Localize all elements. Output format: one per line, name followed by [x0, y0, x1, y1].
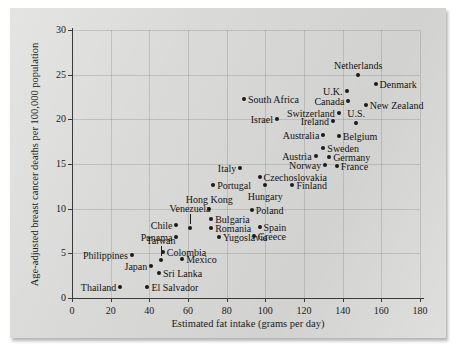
data-point — [118, 285, 122, 289]
x-tick-label: 0 — [70, 304, 75, 317]
data-point — [130, 253, 134, 257]
data-point — [345, 89, 349, 93]
label-leader-line — [190, 214, 191, 224]
point-label: Greece — [258, 231, 286, 242]
point-label: New Zealand — [370, 100, 424, 111]
point-label: Netherlands — [334, 59, 382, 70]
x-tick-mark — [111, 298, 112, 302]
x-tick-mark — [304, 298, 305, 302]
point-label: Venezuela — [169, 203, 210, 214]
y-tick-mark — [68, 75, 72, 76]
data-point — [290, 183, 294, 187]
data-point — [356, 73, 360, 77]
data-point — [346, 99, 350, 103]
point-label: Chile — [151, 219, 173, 230]
x-tick-label: 140 — [335, 304, 350, 317]
data-point — [157, 271, 161, 275]
data-point — [335, 164, 339, 168]
data-point — [314, 154, 318, 158]
data-point — [321, 146, 325, 150]
y-tick-mark — [68, 253, 72, 254]
point-label: Belgium — [343, 131, 377, 142]
x-tick-label: 160 — [374, 304, 389, 317]
point-label: U.S. — [347, 107, 365, 118]
x-tick-mark — [227, 298, 228, 302]
y-tick-label: 0 — [61, 291, 66, 304]
data-point — [374, 82, 378, 86]
label-leader-line — [161, 246, 162, 256]
data-point — [180, 257, 184, 261]
data-point — [149, 264, 153, 268]
data-point — [250, 208, 254, 212]
data-point — [323, 163, 327, 167]
point-label: El Salvador — [151, 282, 198, 293]
x-axis-line: 020406080100120140160180 — [72, 298, 424, 299]
y-axis-title-text: Age-adjusted breast cancer deaths per 10… — [30, 42, 41, 285]
point-label: Israel — [251, 114, 273, 125]
y-tick-mark — [68, 164, 72, 165]
y-axis-line: 051015202530 — [72, 28, 73, 300]
point-label: Portugal — [217, 179, 251, 190]
data-point — [258, 175, 262, 179]
point-label: Italy — [218, 162, 236, 173]
x-tick-mark — [72, 298, 73, 302]
point-label: Hungary — [248, 191, 283, 202]
gridline-horizontal — [72, 30, 420, 31]
data-point — [159, 258, 163, 262]
data-point — [209, 217, 213, 221]
data-point — [217, 235, 221, 239]
point-label: Philippines — [83, 250, 128, 261]
gridline-horizontal — [72, 75, 420, 76]
point-label: Norway — [289, 159, 321, 170]
plot-area: NetherlandsDenmarkU.K.CanadaNew ZealandS… — [72, 30, 420, 298]
y-tick-mark — [68, 209, 72, 210]
y-tick-label: 25 — [56, 68, 66, 81]
gridline-vertical — [420, 30, 421, 298]
point-label: U.K. — [323, 85, 342, 96]
data-point — [242, 97, 246, 101]
point-label: Mexico — [186, 253, 217, 264]
x-tick-label: 120 — [297, 304, 312, 317]
data-point — [238, 166, 242, 170]
point-label: Denmark — [380, 78, 417, 89]
x-tick-label: 80 — [222, 304, 232, 317]
point-label: Sri Lanka — [163, 267, 202, 278]
x-tick-mark — [188, 298, 189, 302]
y-tick-label: 5 — [61, 246, 66, 259]
point-label: South Africa — [248, 93, 299, 104]
point-label: Ireland — [301, 116, 329, 127]
x-tick-mark — [343, 298, 344, 302]
x-tick-label: 180 — [413, 304, 428, 317]
point-label: France — [341, 160, 368, 171]
y-tick-label: 30 — [56, 23, 66, 36]
x-tick-label: 20 — [106, 304, 116, 317]
data-point — [321, 133, 325, 137]
data-point — [174, 223, 178, 227]
y-tick-mark — [68, 30, 72, 31]
data-point — [327, 155, 331, 159]
point-label: Finland — [296, 179, 327, 190]
y-axis-title: Age-adjusted breast cancer deaths per 10… — [28, 28, 42, 300]
gridline-horizontal — [72, 119, 420, 120]
x-tick-mark — [420, 298, 421, 302]
data-point — [209, 226, 213, 230]
point-label: Thailand — [81, 282, 117, 293]
x-tick-label: 60 — [183, 304, 193, 317]
data-point — [331, 119, 335, 123]
data-point — [337, 134, 341, 138]
point-label: Japan — [124, 260, 147, 271]
x-tick-mark — [149, 298, 150, 302]
chart-panel: NetherlandsDenmarkU.K.CanadaNew ZealandS… — [10, 8, 446, 338]
x-tick-mark — [265, 298, 266, 302]
point-label: Poland — [256, 204, 284, 215]
y-tick-mark — [68, 119, 72, 120]
point-label: Canada — [314, 96, 344, 107]
y-tick-label: 10 — [56, 202, 66, 215]
data-point — [263, 183, 267, 187]
scatter-plot-figure: NetherlandsDenmarkU.K.CanadaNew ZealandS… — [0, 0, 458, 353]
x-tick-label: 40 — [144, 304, 154, 317]
data-point — [354, 121, 358, 125]
y-tick-label: 15 — [56, 157, 66, 170]
x-axis-title: Estimated fat intake (grams per day) — [72, 318, 424, 329]
data-point — [337, 111, 341, 115]
